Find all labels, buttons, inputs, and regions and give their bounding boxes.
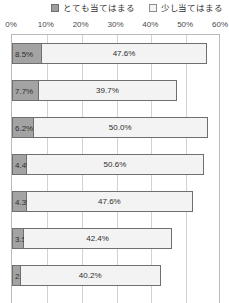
bar-segment-label: 47.6% [113, 49, 136, 58]
bar-row[interactable]: 8.5%47.6% [12, 43, 207, 64]
bar-segment-strong: 6.2% [12, 117, 34, 138]
bar-segment-weak: 39.7% [39, 80, 177, 101]
x-tick-label: 20% [73, 19, 89, 30]
bar-row[interactable]: 3.5%42.4% [12, 228, 172, 249]
plot-area: 8.5%47.6%7.7%39.7%6.2%50.0%4.4%50.6%4.3%… [11, 34, 220, 303]
bar-segment-weak: 40.2% [21, 265, 161, 286]
bar-row[interactable]: 6.2%50.0% [12, 117, 208, 138]
bar-row[interactable]: 4.4%50.6% [12, 154, 204, 175]
bar-segment-weak: 50.0% [34, 117, 208, 138]
bar-segment-weak: 42.4% [24, 228, 172, 249]
x-tick-label: 30% [107, 19, 123, 30]
chart-legend: とても当てはまる 少し当てはまる [0, 0, 229, 16]
bar-segment-label: 42.4% [86, 234, 109, 243]
bar-segment-label: 6.2% [15, 123, 33, 132]
bar-segment-strong: 3.5% [12, 228, 24, 249]
x-tick-label: 10% [38, 19, 54, 30]
bar-segment-label: 8.5% [15, 49, 33, 58]
bar-row[interactable]: 7.7%39.7% [12, 80, 177, 101]
x-tick-label: 50% [177, 19, 193, 30]
legend-label-weak: 少し当てはまる [161, 4, 223, 13]
bar-segment-strong: 7.7% [12, 80, 39, 101]
legend-label-strong: とても当てはまる [63, 4, 134, 13]
x-tick-label: 0% [5, 19, 17, 30]
outline-white-square-icon [149, 4, 157, 12]
bar-segment-weak: 50.6% [27, 154, 203, 175]
bar-segment-label: 50.6% [104, 160, 127, 169]
legend-item-weak[interactable]: 少し当てはまる [149, 4, 223, 13]
legend-item-strong[interactable]: とても当てはまる [51, 4, 134, 13]
bar-segment-label: 40.2% [79, 271, 102, 280]
bar-segment-label: 39.7% [96, 86, 119, 95]
bar-segment-strong: 4.4% [12, 154, 27, 175]
stacked-bar-chart: とても当てはまる 少し当てはまる 0%10%20%30%40%50%60% 8.… [0, 0, 229, 303]
filled-gray-square-icon [51, 4, 59, 12]
bar-segment-strong: 8.5% [12, 43, 42, 64]
bar-segment-strong: 2.5% [12, 265, 21, 286]
bar-row[interactable]: 4.3%47.6% [12, 191, 193, 212]
bar-segment-label: 7.7% [15, 86, 33, 95]
bar-segment-weak: 47.6% [42, 43, 208, 64]
bar-segment-strong: 4.3% [12, 191, 27, 212]
bar-segment-label: 47.6% [98, 197, 121, 206]
bar-row[interactable]: 2.5%40.2% [12, 265, 161, 286]
bar-segment-weak: 47.6% [27, 191, 193, 212]
bar-segment-label: 50.0% [109, 123, 132, 132]
x-tick-label: 60% [212, 19, 228, 30]
x-axis-tick-labels: 0%10%20%30%40%50%60% [0, 19, 229, 31]
x-tick-label: 40% [142, 19, 158, 30]
